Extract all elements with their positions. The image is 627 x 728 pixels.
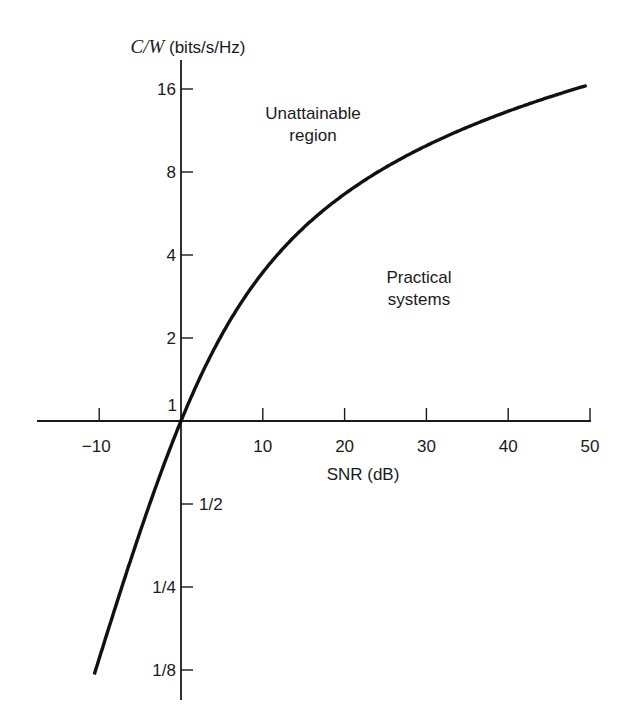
y-axis-title: C/W (bits/s/Hz) (130, 37, 245, 56)
x-tick-label: −10 (82, 438, 111, 455)
y-tick-label: 1/8 (152, 662, 176, 679)
y-axis-title-unit: (bits/s/Hz) (169, 38, 246, 57)
x-tick-label: 20 (335, 438, 354, 455)
y-tick-label: 2 (167, 330, 176, 347)
annotation-line: Practical (386, 267, 451, 289)
y-tick-label: 8 (167, 164, 176, 181)
y-tick-label: 1/4 (152, 579, 176, 596)
x-tick-label: 10 (253, 438, 272, 455)
y-tick-label: 1 (168, 397, 177, 414)
annotation-line: Unattainable (265, 103, 360, 125)
x-tick-label: 50 (581, 438, 600, 455)
x-tick-label: 30 (417, 438, 436, 455)
annotation-line: systems (386, 289, 451, 311)
y-tick-label: 4 (167, 247, 176, 264)
y-tick-label: 1/2 (199, 496, 223, 513)
annotation-practical-systems: Practical systems (386, 267, 451, 311)
x-tick-label: 40 (499, 438, 518, 455)
y-tick-label: 16 (157, 81, 176, 98)
x-axis-title: SNR (dB) (327, 466, 400, 483)
y-ticks (181, 89, 193, 670)
annotation-unattainable-region: Unattainable region (265, 103, 360, 147)
y-axis-title-var: C/W (130, 36, 164, 57)
annotation-line: region (265, 125, 360, 147)
